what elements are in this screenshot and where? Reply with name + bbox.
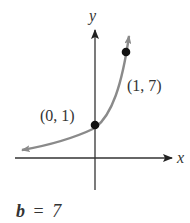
caption-var: b: [16, 201, 25, 221]
point-1-7: [122, 48, 131, 57]
point-0-1: [91, 121, 100, 130]
y-axis-label: y: [87, 7, 97, 25]
caption: b = 7: [16, 201, 62, 221]
exponential-curve-left: [22, 128, 95, 150]
point-label-0-1: (0, 1): [40, 107, 75, 125]
caption-eq: =: [34, 201, 44, 221]
exponential-graph: y x (0, 1) (1, 7) b = 7: [0, 0, 190, 223]
caption-value: 7: [52, 201, 62, 221]
x-axis-label: x: [176, 149, 184, 166]
point-label-1-7: (1, 7): [127, 77, 162, 95]
